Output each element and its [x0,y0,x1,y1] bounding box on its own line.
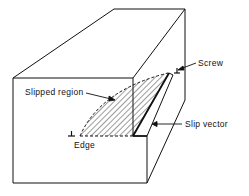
label-slipped-region: Slipped region [25,87,84,97]
label-screw: Screw [198,58,224,68]
edge-dislocation-symbol [68,131,75,136]
dislocation-diagram: Screw Slipped region Slip vector Edge [0,0,249,196]
block-top-face [13,9,185,78]
label-slip-vector: Slip vector [185,119,228,129]
label-edge: Edge [74,140,95,150]
